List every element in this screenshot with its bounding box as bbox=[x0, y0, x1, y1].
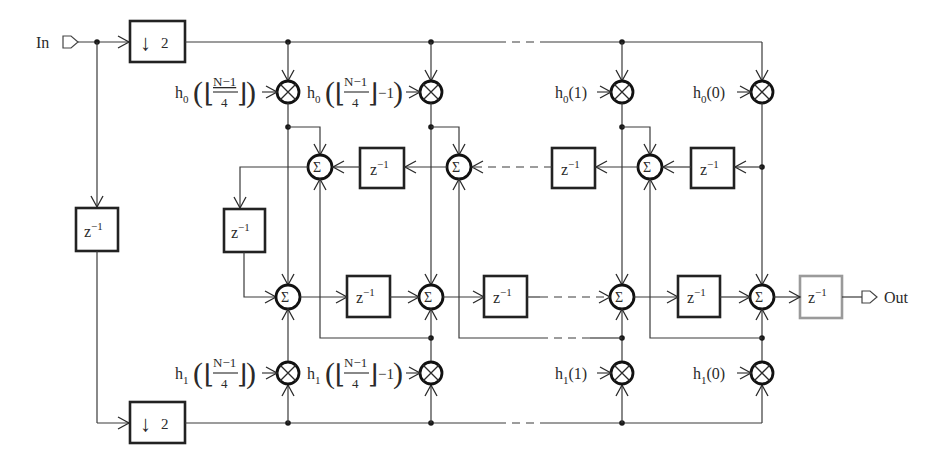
coeff-label-h1-floor: h1 ( ⌊ N−1 4 ⌋ ) bbox=[175, 355, 256, 391]
delay-upper-3: z−1 bbox=[691, 148, 734, 188]
multiplier-bottom-1 bbox=[277, 362, 299, 423]
delay-lower-2: z−1 bbox=[484, 276, 527, 317]
downsample-factor: 2 bbox=[161, 416, 169, 432]
multiplier-top-2 bbox=[420, 42, 442, 103]
delay-upper-2: z−1 bbox=[552, 148, 595, 188]
output-port-icon bbox=[862, 291, 877, 303]
delay-lower-3: z−1 bbox=[678, 276, 720, 317]
svg-text:4: 4 bbox=[352, 376, 359, 391]
multiplier-bottom-3 bbox=[611, 362, 633, 423]
svg-text:): ) bbox=[246, 356, 256, 390]
svg-text:h0: h0 bbox=[307, 84, 321, 105]
sum-upper-2: Σ bbox=[447, 155, 471, 179]
svg-text:N−1: N−1 bbox=[213, 355, 236, 370]
svg-text:N−1: N−1 bbox=[344, 355, 367, 370]
svg-text:(: ( bbox=[325, 75, 335, 109]
svg-text:Σ: Σ bbox=[424, 290, 432, 305]
down-arrow-icon: ↓ bbox=[140, 411, 151, 436]
input-label: In bbox=[36, 34, 49, 51]
svg-text:−1: −1 bbox=[378, 366, 394, 382]
svg-text:Σ: Σ bbox=[281, 290, 289, 305]
downsample-top-block: ↓ 2 bbox=[130, 21, 185, 62]
svg-text:): ) bbox=[246, 75, 256, 109]
coeff-label-h1-0: h1(0) bbox=[693, 365, 725, 386]
svg-text:4: 4 bbox=[352, 95, 359, 110]
delay-lower-1: z−1 bbox=[347, 276, 390, 317]
svg-text:⌋: ⌋ bbox=[368, 79, 378, 108]
svg-text:4: 4 bbox=[221, 376, 228, 391]
svg-text:−1: −1 bbox=[378, 85, 394, 101]
multiplier-bottom-2 bbox=[420, 362, 442, 423]
coeff-label-h1-floor-minus1: h1 ( ⌊ N−1 4 ⌋ −1 ) bbox=[307, 355, 403, 391]
sum-lower-1: Σ bbox=[276, 285, 300, 309]
svg-text:(: ( bbox=[325, 356, 335, 390]
svg-text:h1: h1 bbox=[307, 365, 321, 386]
svg-text:Σ: Σ bbox=[615, 290, 623, 305]
svg-text:Σ: Σ bbox=[452, 160, 460, 175]
multiplier-top-1 bbox=[277, 42, 299, 103]
multiplier-top-3 bbox=[611, 42, 633, 103]
svg-text:4: 4 bbox=[221, 95, 228, 110]
input-port-icon bbox=[63, 36, 78, 48]
polyphase-filter-diagram: In ↓ 2 z−1 ↓ 2 h bbox=[0, 0, 946, 466]
coeff-label-h0-floor: h0 ( ⌊ N−1 4 ⌋ ) bbox=[175, 74, 256, 110]
svg-text:N−1: N−1 bbox=[213, 74, 236, 89]
svg-text:N−1: N−1 bbox=[344, 74, 367, 89]
svg-text:Σ: Σ bbox=[643, 160, 651, 175]
svg-text:Σ: Σ bbox=[313, 160, 321, 175]
svg-text:h1: h1 bbox=[175, 365, 189, 386]
output-port: Out bbox=[862, 289, 909, 306]
svg-text:): ) bbox=[393, 356, 403, 390]
down-arrow-icon: ↓ bbox=[140, 30, 151, 55]
sum-upper-3: Σ bbox=[638, 155, 662, 179]
coeff-label-h0-0: h0(0) bbox=[693, 84, 725, 105]
sum-lower-2: Σ bbox=[419, 285, 443, 309]
svg-text:h0: h0 bbox=[175, 84, 189, 105]
downsample-factor: 2 bbox=[161, 35, 169, 51]
svg-text:⌋: ⌋ bbox=[368, 360, 378, 389]
delay-upper-1: z−1 bbox=[360, 148, 404, 188]
coeff-label-h1-1: h1(1) bbox=[555, 365, 587, 386]
sum-lower-3: Σ bbox=[610, 285, 634, 309]
sum-upper-1: Σ bbox=[308, 155, 332, 179]
delay-left: z−1 bbox=[224, 209, 265, 252]
coeff-label-h0-floor-minus1: h0 ( ⌊ N−1 4 ⌋ −1 ) bbox=[307, 74, 403, 110]
downsample-bottom-block: ↓ 2 bbox=[130, 402, 185, 443]
svg-text:Σ: Σ bbox=[755, 290, 763, 305]
svg-text:(: ( bbox=[193, 356, 203, 390]
delay-output: z−1 bbox=[800, 276, 842, 318]
input-port: In bbox=[36, 34, 78, 51]
input-delay-block: z−1 bbox=[76, 208, 118, 251]
sum-lower-4: Σ bbox=[750, 285, 774, 309]
coeff-label-h0-1: h0(1) bbox=[555, 84, 587, 105]
svg-text:): ) bbox=[393, 75, 403, 109]
svg-text:(: ( bbox=[193, 75, 203, 109]
output-label: Out bbox=[884, 289, 909, 306]
